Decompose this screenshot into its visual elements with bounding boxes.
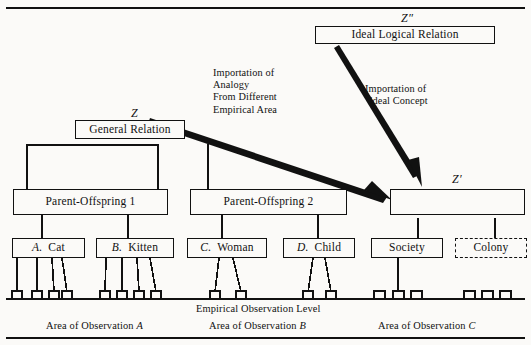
node-z-prime[interactable] xyxy=(390,189,525,215)
node-kitten[interactable]: B.Kitten xyxy=(96,238,174,258)
caption-area-a-text: Area of Observation xyxy=(46,320,136,331)
node-colony[interactable]: Colony xyxy=(455,238,527,258)
caption-area-c-text: Area of Observation xyxy=(378,320,468,331)
node-parent-offspring-1[interactable]: Parent-Offspring 1 xyxy=(13,189,168,215)
node-woman-label: Woman xyxy=(217,241,253,253)
node-cat[interactable]: A.Cat xyxy=(12,238,85,258)
node-woman[interactable]: C.Woman xyxy=(187,238,267,258)
arrow-label-analogy: Importation of Analogy From Different Em… xyxy=(213,67,277,116)
node-child[interactable]: D.Child xyxy=(283,238,355,258)
arrow-label-ideal-concept-line-0: Importation of xyxy=(365,83,428,95)
caption-area-c: Area of Observation C xyxy=(378,320,476,331)
node-parent-offspring-1-label: Parent-Offspring 1 xyxy=(46,196,136,208)
caption-area-a-letter: A xyxy=(136,320,143,331)
node-parent-offspring-2[interactable]: Parent-Offspring 2 xyxy=(190,189,347,215)
node-cat-content: A.Cat xyxy=(32,242,65,254)
node-cat-label: Cat xyxy=(48,241,65,253)
node-general-relation-label: General Relation xyxy=(89,124,170,136)
caption-area-b: Area of Observation B xyxy=(209,320,306,331)
node-child-label: Child xyxy=(315,241,342,253)
node-cat-letter: A. xyxy=(32,241,48,253)
arrow-label-ideal-concept-line-1: Ideal Concept xyxy=(365,95,428,107)
node-kitten-letter: B. xyxy=(112,241,128,253)
node-kitten-label: Kitten xyxy=(128,241,158,253)
node-child-letter: D. xyxy=(297,241,315,253)
node-ideal-logical-relation[interactable]: Ideal Logical Relation xyxy=(315,26,495,44)
arrow-label-analogy-line-0: Importation of xyxy=(213,67,277,79)
node-general-relation[interactable]: General Relation xyxy=(75,120,185,139)
arrow-label-ideal-concept: Importation of Ideal Concept xyxy=(365,83,428,107)
node-woman-content: C.Woman xyxy=(200,242,253,254)
node-parent-offspring-2-label: Parent-Offspring 2 xyxy=(224,196,314,208)
tag-z-double-prime: Z″ xyxy=(401,11,413,26)
arrow-label-analogy-line-2: From Different xyxy=(213,91,277,103)
top-rule xyxy=(6,7,525,9)
node-woman-letter: C. xyxy=(200,241,217,253)
caption-observation-level: Empirical Observation Level xyxy=(196,303,321,314)
diagram-canvas: Z″ Ideal Logical Relation Z General Rela… xyxy=(0,0,531,345)
caption-area-c-letter: C xyxy=(468,320,475,331)
caption-area-b-text: Area of Observation xyxy=(209,320,299,331)
caption-area-a: Area of Observation A xyxy=(46,320,143,331)
ideal-concept-arrow-shape xyxy=(334,45,422,187)
tag-z-prime: Z′ xyxy=(452,172,462,187)
node-kitten-content: B.Kitten xyxy=(112,242,158,254)
caption-area-b-letter: B xyxy=(299,320,306,331)
node-society[interactable]: Society xyxy=(371,238,443,258)
tag-z: Z xyxy=(131,106,138,121)
node-society-label: Society xyxy=(389,242,425,254)
node-colony-label: Colony xyxy=(473,242,508,254)
node-child-content: D.Child xyxy=(297,242,341,254)
arrow-label-analogy-line-3: Empirical Area xyxy=(213,104,277,116)
arrow-label-analogy-line-1: Analogy xyxy=(213,79,277,91)
node-ideal-logical-relation-label: Ideal Logical Relation xyxy=(351,29,458,41)
